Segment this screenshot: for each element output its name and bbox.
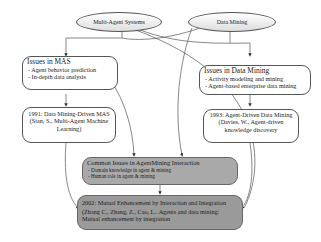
milestone-1991-node[interactable]: 1991: Data Mining-Driven MAS (Sian, S., … [22, 107, 116, 143]
root-label: Multi-Agent Systems [93, 19, 145, 25]
node-line: knowledge discovery [208, 126, 294, 133]
issues-data-mining-node[interactable]: Issues in Data Mining Activity modeling … [199, 65, 311, 95]
root-label: Data Mining [217, 19, 248, 25]
list-item: Agent behavior prediction [27, 66, 113, 73]
node-line: 1991: Data Mining-Driven MAS [27, 110, 111, 117]
node-title: 2002: Mutual Enhancement by Interaction … [82, 199, 238, 207]
node-title: Issues in Data Mining [204, 67, 306, 75]
root-node-data-mining[interactable]: Data Mining [188, 12, 276, 32]
node-line: Mutual enhancement by integration [82, 215, 238, 222]
common-issues-node[interactable]: Common Issues in AgentMining Interaction… [82, 157, 238, 185]
mutual-enhancement-2002-node[interactable]: 2002: Mutual Enhancement by Interaction … [77, 195, 243, 230]
list-item: Human role in agent & mining [87, 173, 233, 179]
issues-mas-node[interactable]: Issues in MAS Agent behavior prediction … [22, 56, 118, 90]
list-item: Agent-based enterprise data mining [204, 82, 306, 89]
node-line: (Davies, W., Agent-driven [208, 118, 294, 125]
root-node-multi-agent-systems[interactable]: Multi-Agent Systems [76, 12, 162, 32]
milestone-1993-node[interactable]: 1993: Agent-Driven Data Mining (Davies, … [203, 109, 299, 143]
node-line: (Zhang C., Zhang, Z., Cao, L.. Agents an… [82, 208, 238, 215]
node-title: Issues in MAS [27, 58, 113, 66]
node-line: (Sian, S., Multi-Agent Machine [27, 117, 111, 124]
node-title: Common Issues in AgentMining Interaction [87, 159, 233, 167]
list-item: Activity modeling and mining [204, 75, 306, 82]
node-line: 1993: Agent-Driven Data Mining [208, 111, 294, 118]
node-line: Learning) [27, 125, 111, 132]
list-item: In-depth data analysis [27, 73, 113, 80]
